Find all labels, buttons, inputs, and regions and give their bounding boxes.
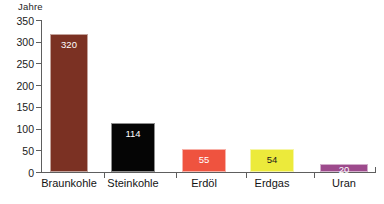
y-axis-tick	[36, 63, 41, 64]
x-axis-end-tick	[375, 167, 376, 173]
y-axis-tick	[36, 85, 41, 86]
bar-value-label: 114	[112, 129, 154, 139]
y-axis-tick	[36, 172, 41, 173]
y-axis-tick	[36, 129, 41, 130]
y-axis-line	[41, 20, 42, 173]
y-axis-tick	[36, 20, 41, 21]
bar-erdgas[interactable]: 54	[250, 149, 294, 172]
bar-value-label: 55	[183, 155, 225, 165]
y-axis-tick	[36, 150, 41, 151]
bar-braunkohle[interactable]: 320	[50, 34, 88, 173]
y-axis-title: Jahre	[18, 1, 43, 12]
y-axis-tick-label: 100	[0, 124, 34, 135]
bar-value-label: 54	[251, 155, 293, 165]
y-axis-tick-label: 350	[0, 15, 34, 26]
y-axis-tick-label: 300	[0, 37, 34, 48]
y-axis-tick-label: 200	[0, 80, 34, 91]
bar-value-label: 20	[321, 165, 367, 175]
y-axis-tick	[36, 107, 41, 108]
y-axis-tick-label: 150	[0, 102, 34, 113]
bar-chart: Jahre 050100150200250300350 320114555420…	[0, 0, 384, 204]
bar-uran[interactable]: 20	[320, 164, 368, 173]
y-axis-tick	[36, 42, 41, 43]
y-axis-tick-label: 250	[0, 59, 34, 70]
category-label-uran: Uran	[294, 177, 384, 189]
y-axis-tick-label: 50	[0, 146, 34, 157]
bar-value-label: 320	[51, 40, 87, 50]
bar-erd-l[interactable]: 55	[182, 149, 226, 173]
bar-steinkohle[interactable]: 114	[111, 123, 155, 173]
